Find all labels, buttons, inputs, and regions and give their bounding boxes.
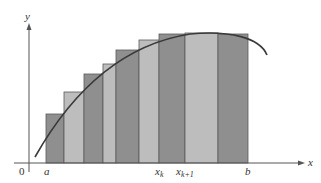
y-axis-label: y xyxy=(24,10,30,22)
riemann-rectangle-7 xyxy=(159,34,185,163)
origin-label: 0 xyxy=(19,165,25,177)
riemann-rectangle-8 xyxy=(185,33,218,163)
riemann-rectangle-4 xyxy=(103,64,116,163)
riemann-rectangle-1 xyxy=(46,114,64,163)
x-axis-arrow-icon xyxy=(298,161,305,166)
x-axis-label: x xyxy=(307,156,313,168)
tick-label-x-k-plus-1: xk+1 xyxy=(175,165,194,179)
riemann-rectangle-9 xyxy=(218,34,248,163)
riemann-sum-diagram: y x 0 a xk xk+1 b xyxy=(0,0,321,183)
x-k-subscript: k xyxy=(160,170,164,179)
tick-label-a: a xyxy=(44,165,50,177)
riemann-rectangle-6 xyxy=(139,40,159,163)
riemann-rectangle-2 xyxy=(64,92,84,163)
tick-label-x-k: xk xyxy=(154,165,164,179)
riemann-rectangle-5 xyxy=(116,50,139,163)
x-k1-subscript: k+1 xyxy=(181,170,194,179)
y-axis-arrow-icon xyxy=(27,23,32,30)
tick-label-b: b xyxy=(245,165,251,177)
